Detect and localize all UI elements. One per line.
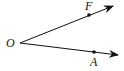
label-a: A (89, 55, 98, 69)
label-f: F (84, 0, 93, 13)
point-a (92, 50, 96, 54)
ray-of (20, 6, 113, 43)
angle-diagram: O F A (0, 0, 124, 71)
label-o: O (6, 36, 15, 50)
point-f (87, 13, 91, 17)
ray-oa (20, 43, 118, 55)
